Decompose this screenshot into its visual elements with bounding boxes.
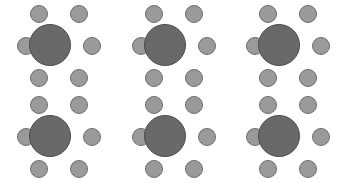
table-cluster[interactable] [129,3,229,91]
chair-circle[interactable] [312,128,330,146]
chair-circle[interactable] [299,160,317,178]
chair-circle[interactable] [30,160,48,178]
chair-circle[interactable] [30,96,48,114]
chair-circle[interactable] [145,160,163,178]
table-cluster[interactable] [14,3,114,91]
chair-circle[interactable] [70,69,88,87]
chair-circle[interactable] [145,96,163,114]
chair-circle[interactable] [30,5,48,23]
chair-circle[interactable] [83,128,101,146]
chair-circle[interactable] [83,37,101,55]
table-cluster[interactable] [243,3,343,91]
chair-circle[interactable] [259,160,277,178]
table-circle[interactable] [144,115,186,157]
table-cluster[interactable] [243,94,343,182]
chair-circle[interactable] [145,69,163,87]
chair-circle[interactable] [259,96,277,114]
chair-circle[interactable] [70,96,88,114]
chair-circle[interactable] [299,69,317,87]
chair-circle[interactable] [299,5,317,23]
chair-circle[interactable] [30,69,48,87]
table-circle[interactable] [29,115,71,157]
chair-circle[interactable] [185,96,203,114]
chair-circle[interactable] [198,128,216,146]
table-cluster[interactable] [129,94,229,182]
chair-circle[interactable] [259,69,277,87]
chair-circle[interactable] [185,5,203,23]
chair-circle[interactable] [312,37,330,55]
table-circle[interactable] [144,24,186,66]
chair-circle[interactable] [185,160,203,178]
chair-circle[interactable] [70,5,88,23]
table-cluster[interactable] [14,94,114,182]
seating-diagram-canvas [0,0,345,183]
chair-circle[interactable] [70,160,88,178]
table-circle[interactable] [29,24,71,66]
table-circle[interactable] [258,115,300,157]
chair-circle[interactable] [185,69,203,87]
chair-circle[interactable] [299,96,317,114]
table-circle[interactable] [258,24,300,66]
chair-circle[interactable] [198,37,216,55]
chair-circle[interactable] [145,5,163,23]
chair-circle[interactable] [259,5,277,23]
